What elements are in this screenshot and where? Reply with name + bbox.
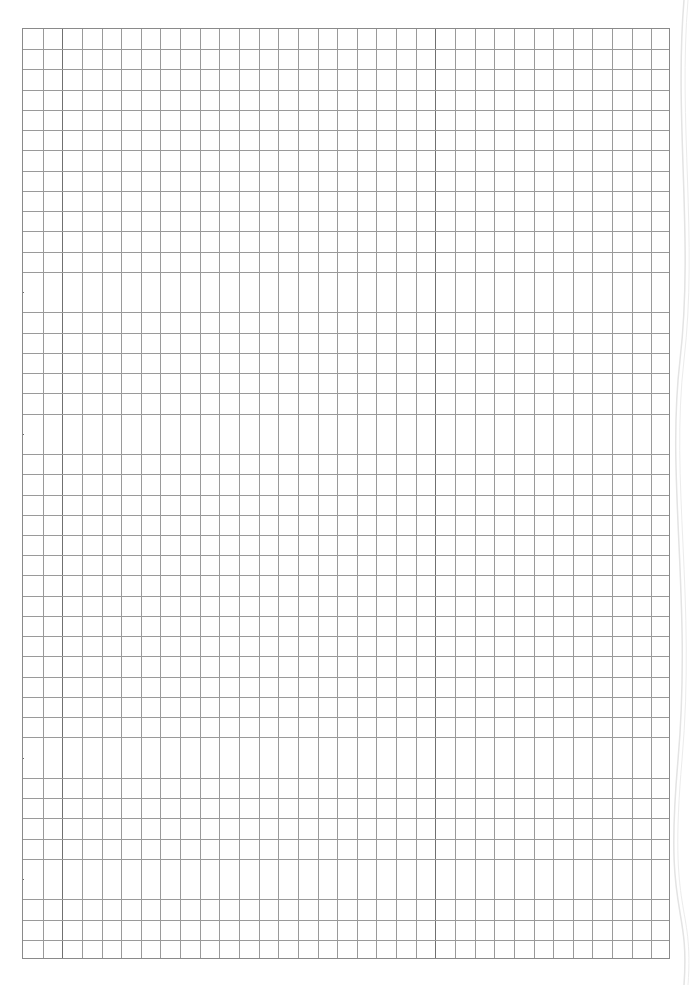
grid-line-horizontal [23, 272, 669, 273]
grid-line-horizontal [23, 920, 669, 921]
grid-line-horizontal [23, 555, 669, 556]
grid-line-horizontal [23, 110, 669, 111]
grid-line-horizontal [23, 758, 24, 759]
grid-line-horizontal [23, 697, 669, 698]
grid-line-horizontal [23, 292, 24, 293]
grid-line-horizontal [23, 778, 669, 779]
torn-page-edge [670, 0, 698, 985]
grid-line-horizontal [23, 717, 669, 718]
grid-line-horizontal [23, 575, 669, 576]
grid-line-horizontal [23, 150, 669, 151]
grid-line-horizontal [23, 69, 669, 70]
grid-line-horizontal [23, 596, 669, 597]
grid-line-horizontal [23, 737, 669, 738]
grid-line-horizontal [23, 231, 669, 232]
graph-paper-grid [22, 28, 670, 959]
grid-line-horizontal [23, 677, 669, 678]
grid-line-horizontal [23, 495, 669, 496]
grid-line-horizontal [23, 312, 669, 313]
grid-line-horizontal [23, 899, 669, 900]
grid-line-horizontal [23, 191, 669, 192]
grid-line-horizontal [23, 636, 669, 637]
grid-line-horizontal [23, 535, 669, 536]
grid-line-horizontal [23, 171, 669, 172]
grid-line-horizontal [23, 818, 669, 819]
grid-line-horizontal [23, 252, 669, 253]
grid-line-horizontal [23, 515, 669, 516]
grid-line-horizontal [23, 859, 669, 860]
grid-line-horizontal [23, 879, 24, 880]
grid-line-horizontal [23, 616, 669, 617]
grid-line-horizontal [23, 798, 669, 799]
grid-line-horizontal [23, 393, 669, 394]
grid-line-horizontal [23, 940, 669, 941]
grid-line-horizontal [23, 130, 669, 131]
grid-line-horizontal [23, 373, 669, 374]
grid-line-horizontal [23, 474, 669, 475]
grid-line-horizontal [23, 454, 669, 455]
grid-line-horizontal [23, 839, 669, 840]
grid-line-horizontal [23, 90, 669, 91]
grid-line-horizontal [23, 414, 669, 415]
grid-line-horizontal [23, 333, 669, 334]
grid-line-horizontal [23, 211, 669, 212]
grid-line-horizontal [23, 353, 669, 354]
grid-line-horizontal [23, 49, 669, 50]
grid-line-horizontal [23, 656, 669, 657]
grid-line-horizontal [23, 434, 24, 435]
